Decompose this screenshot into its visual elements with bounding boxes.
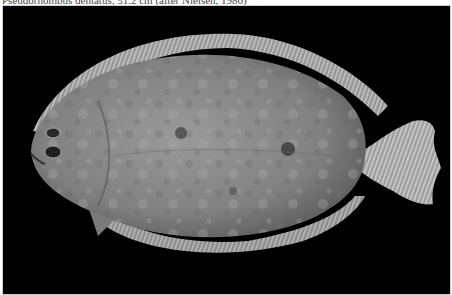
eye-lower	[45, 146, 61, 158]
body-spot	[281, 142, 295, 156]
caudal-fin	[353, 120, 441, 204]
specimen-photo	[2, 5, 451, 295]
body-spot	[175, 127, 187, 139]
body-spot	[229, 187, 237, 195]
flatfish-illustration	[3, 6, 450, 294]
eye-upper	[46, 128, 60, 138]
